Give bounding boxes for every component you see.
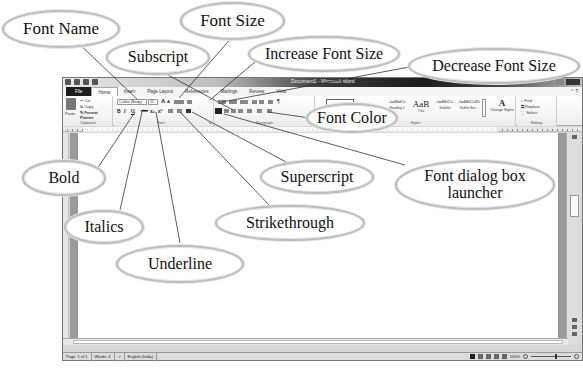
change-styles-button[interactable]: AChange Styles bbox=[490, 98, 514, 112]
undo-icon[interactable] bbox=[83, 79, 89, 85]
tab-mailings[interactable]: Mailings bbox=[214, 87, 243, 96]
callout-label: Font Size bbox=[200, 12, 265, 30]
find-button[interactable]: ⌕ Find bbox=[521, 98, 532, 103]
text-effects-button[interactable] bbox=[168, 109, 173, 113]
vertical-scroll-thumb[interactable] bbox=[570, 195, 579, 217]
font-name-select[interactable]: Calibri (Body) bbox=[117, 99, 147, 105]
page-count[interactable]: Page: 1 of 1 bbox=[63, 353, 92, 361]
show-formatting-button[interactable]: ¶ bbox=[277, 98, 280, 104]
ruler-text-area bbox=[83, 127, 498, 132]
web-layout-icon[interactable] bbox=[486, 354, 491, 359]
callout-label-line1: Font dialog box bbox=[424, 168, 525, 185]
zoom-in-icon[interactable] bbox=[574, 354, 579, 359]
style-title[interactable]: AaBTitle bbox=[410, 99, 432, 117]
styles-scroll[interactable] bbox=[482, 99, 486, 117]
style-name: Subtle Em... bbox=[458, 106, 480, 110]
increase-indent-button[interactable] bbox=[259, 100, 264, 104]
justify-button[interactable] bbox=[238, 109, 243, 113]
help-icon[interactable]: ⌃ ? bbox=[570, 88, 578, 94]
tab-file[interactable]: File bbox=[66, 87, 91, 96]
replace-label: Replace bbox=[525, 104, 540, 109]
italic-button[interactable]: I bbox=[124, 108, 125, 114]
bold-button[interactable]: B bbox=[117, 108, 121, 114]
horizontal-scrollbar[interactable] bbox=[63, 338, 568, 345]
copy-button[interactable]: ⧉ Copy bbox=[80, 104, 93, 109]
tab-page-layout[interactable]: Page Layout bbox=[141, 87, 179, 96]
subscript-button[interactable]: x₂ bbox=[150, 108, 155, 114]
strikethrough-button[interactable]: abc bbox=[141, 108, 148, 113]
font-group-label: Font ↘ bbox=[114, 121, 213, 126]
word-count[interactable]: Words: 4 bbox=[92, 353, 115, 361]
redo-icon[interactable] bbox=[92, 79, 98, 85]
style-name: Title bbox=[410, 109, 432, 113]
save-icon[interactable] bbox=[74, 79, 80, 85]
outline-icon[interactable] bbox=[494, 354, 499, 359]
callout-label: Underline bbox=[148, 256, 212, 273]
shading-button[interactable] bbox=[257, 109, 262, 113]
zoom-slider-knob[interactable] bbox=[555, 354, 557, 359]
change-styles-label: Change Styles bbox=[490, 108, 513, 112]
line-spacing-button[interactable] bbox=[247, 109, 252, 113]
style-sample: AaBbCc. bbox=[434, 99, 456, 104]
print-layout-icon[interactable] bbox=[470, 354, 475, 359]
center-button[interactable] bbox=[224, 109, 229, 113]
proofing-icon[interactable]: ✓ bbox=[115, 353, 125, 361]
status-bar: Page: 1 of 1 Words: 4 ✓ English (India) … bbox=[63, 352, 582, 360]
paste-button[interactable]: Paste bbox=[65, 111, 75, 116]
clear-formatting-button[interactable] bbox=[187, 100, 192, 104]
tab-insert[interactable]: Insert bbox=[118, 87, 142, 96]
zoom-slider[interactable] bbox=[531, 356, 571, 357]
maximize-button[interactable] bbox=[555, 79, 564, 85]
callout-label: Increase Font Size bbox=[265, 46, 383, 63]
decrease-indent-button[interactable] bbox=[252, 100, 257, 104]
multilevel-list-button[interactable] bbox=[240, 100, 248, 104]
replace-button[interactable]: ⇆ Replace bbox=[521, 104, 540, 109]
tab-references[interactable]: References bbox=[179, 87, 215, 96]
callout-label: Italics bbox=[84, 219, 123, 236]
shrink-font-button[interactable]: A bbox=[167, 99, 170, 104]
style-subtitle[interactable]: AaBbCc.Subtitle bbox=[434, 99, 456, 117]
align-left-button[interactable] bbox=[215, 108, 222, 114]
change-case-button[interactable] bbox=[174, 100, 184, 104]
tab-home[interactable]: Home bbox=[91, 87, 117, 96]
sort-button[interactable] bbox=[268, 100, 273, 104]
select-button[interactable]: ⬚ Select bbox=[521, 110, 537, 115]
previous-page-button[interactable] bbox=[572, 318, 577, 322]
next-page-button[interactable] bbox=[572, 332, 577, 336]
align-right-button[interactable] bbox=[231, 109, 236, 113]
callout-underline: Underline bbox=[116, 245, 244, 283]
zoom-level[interactable]: 100% bbox=[510, 354, 520, 359]
numbering-button[interactable] bbox=[229, 100, 237, 104]
tab-review[interactable]: Review bbox=[243, 87, 270, 96]
close-button[interactable] bbox=[566, 79, 580, 85]
zoom-out-icon[interactable] bbox=[523, 354, 528, 359]
grow-font-button[interactable]: A bbox=[161, 98, 165, 104]
underline-button[interactable]: U bbox=[131, 108, 135, 114]
tab-view[interactable]: View bbox=[270, 87, 292, 96]
find-label: Find bbox=[524, 98, 532, 103]
superscript-button[interactable]: x² bbox=[158, 108, 162, 114]
callout-font-size: Font Size bbox=[180, 2, 285, 40]
scroll-up-button[interactable] bbox=[572, 135, 577, 139]
format-painter-button[interactable]: ✎ Format Painter bbox=[80, 110, 112, 120]
language[interactable]: English (India) bbox=[125, 353, 158, 361]
horizontal-scroll-thumb[interactable] bbox=[73, 340, 563, 344]
full-screen-reading-icon[interactable] bbox=[478, 354, 483, 359]
draft-icon[interactable] bbox=[502, 354, 507, 359]
highlight-color-button[interactable] bbox=[177, 109, 182, 113]
paste-icon[interactable] bbox=[66, 98, 76, 110]
font-dialog-launcher-icon[interactable]: ↘ bbox=[208, 121, 213, 126]
font-size-select[interactable]: 11 bbox=[148, 99, 158, 105]
browse-object-button[interactable] bbox=[572, 325, 577, 329]
cut-label: Cut bbox=[84, 98, 90, 103]
callout-subscript: Subscript bbox=[106, 40, 210, 75]
borders-button[interactable] bbox=[267, 109, 272, 113]
select-label: Select bbox=[526, 110, 537, 115]
vertical-scrollbar[interactable] bbox=[566, 133, 582, 345]
word-icon[interactable] bbox=[65, 79, 71, 85]
callout-strikethrough: Strikethrough bbox=[215, 205, 365, 241]
bullets-button[interactable] bbox=[218, 100, 226, 104]
style-subtle-emphasis[interactable]: AaBbCcDıSubtle Em... bbox=[458, 99, 480, 117]
font-color-button[interactable] bbox=[186, 109, 191, 113]
cut-button[interactable]: ✂ Cut bbox=[80, 98, 90, 103]
